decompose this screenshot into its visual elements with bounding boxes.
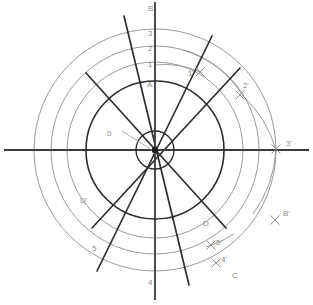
label-c-bottom: C <box>232 271 238 280</box>
label-3-top: 3 <box>148 29 153 38</box>
label-b-top: B <box>148 4 153 13</box>
center-origin-dot <box>152 147 158 153</box>
label-0-origin: 0 <box>107 129 112 138</box>
label-1-prime: 1' <box>188 69 194 78</box>
marker-4-prime <box>212 259 221 268</box>
label-2-prime: 2' <box>243 81 249 90</box>
radial-line-b <box>92 68 240 228</box>
label-1-top: 1 <box>148 60 153 69</box>
label-5-prime: 5' <box>216 238 222 247</box>
diagram-canvas: B321A1'2'3'B'D5'4'C45D'0 <box>0 0 313 305</box>
label-4-bottom: 4 <box>148 278 153 287</box>
label-a-top: A <box>147 80 153 89</box>
marker-5-prime <box>207 241 216 250</box>
marker-1-prime <box>196 68 205 77</box>
polar-construction-diagram: B321A1'2'3'B'D5'4'C45D'0 <box>0 0 313 305</box>
arc-b-to-b-prime <box>253 150 276 214</box>
origin-point <box>152 147 158 153</box>
label-4-prime: 4' <box>221 255 227 264</box>
label-d-prime: D' <box>80 196 88 205</box>
marker-b-prime <box>271 216 280 225</box>
label-2-top: 2 <box>148 44 153 53</box>
label-b-prime: B' <box>283 209 290 218</box>
label-d-right: D <box>203 219 209 228</box>
label-3-prime: 3' <box>286 139 292 148</box>
label-5-left: 5 <box>92 244 97 253</box>
